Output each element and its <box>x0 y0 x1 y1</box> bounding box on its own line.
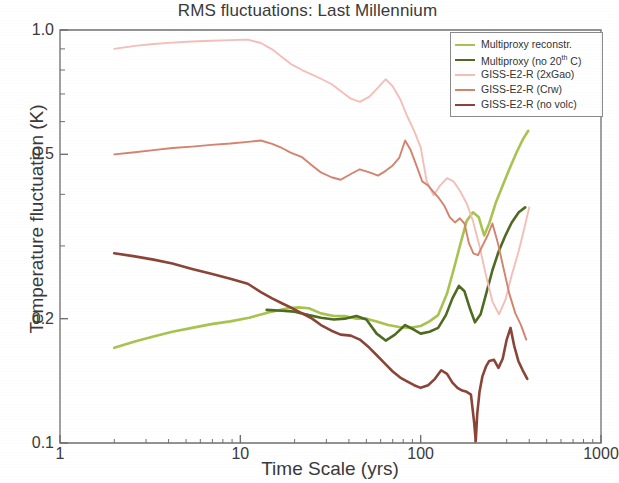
chart-legend: Multiproxy reconstr.Multiproxy (no 20th … <box>450 32 603 117</box>
legend-color-swatch <box>455 74 475 76</box>
legend-item-label: GISS-E2-R (no volc) <box>481 98 577 111</box>
series-line <box>114 131 528 348</box>
legend-color-swatch <box>455 44 475 46</box>
legend-item[interactable]: GISS-E2-R (no volc) <box>455 97 598 112</box>
legend-item-label: GISS-E2-R (2xGao) <box>481 68 574 81</box>
legend-item[interactable]: Multiproxy reconstr. <box>455 37 598 52</box>
legend-item[interactable]: Multiproxy (no 20th C) <box>455 52 598 67</box>
legend-color-swatch <box>455 104 475 106</box>
series-line <box>114 141 526 340</box>
legend-item[interactable]: GISS-E2-R (Crw) <box>455 82 598 97</box>
legend-item[interactable]: GISS-E2-R (2xGao) <box>455 67 598 82</box>
legend-color-swatch <box>455 89 475 91</box>
legend-item-label: Multiproxy (no 20th C) <box>481 51 581 68</box>
legend-item-label: Multiproxy reconstr. <box>481 38 572 51</box>
legend-item-label: GISS-E2-R (Crw) <box>481 83 562 96</box>
legend-color-swatch <box>455 59 475 61</box>
series-line <box>114 253 527 441</box>
